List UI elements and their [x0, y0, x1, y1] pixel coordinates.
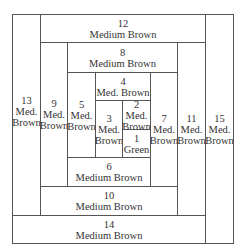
- block-number: 14: [104, 219, 115, 230]
- block-number: 13: [21, 95, 32, 106]
- block-1-center: 1 Green: [122, 129, 151, 158]
- block-number: 11: [186, 113, 196, 124]
- block-color-label: Med.: [181, 124, 203, 135]
- block-5: 5 Med. Brown: [67, 72, 96, 158]
- block-color-label: Med.: [209, 124, 231, 135]
- block-number: 15: [214, 113, 225, 124]
- block-11: 11 Med. Brown: [177, 42, 206, 216]
- block-15: 15 Med. Brown: [205, 14, 234, 244]
- block-number: 12: [118, 18, 129, 29]
- block-7: 7 Med. Brown: [150, 72, 178, 187]
- block-number: 10: [104, 190, 115, 201]
- block-2: 2 Med. Brown: [122, 100, 151, 130]
- block-14: 14 Medium Brown: [12, 215, 206, 244]
- block-color-label: Brown: [177, 135, 206, 146]
- block-8: 8 Medium Brown: [67, 42, 178, 73]
- block-color-label: Brown: [12, 117, 41, 128]
- block-color-label: Medium Brown: [76, 201, 143, 212]
- block-12: 12 Medium Brown: [40, 14, 206, 43]
- block-color-label: Med.: [71, 110, 93, 121]
- block-color-label: Med.: [16, 106, 38, 117]
- block-6: 6 Medium Brown: [67, 157, 151, 187]
- block-number: 8: [120, 47, 125, 58]
- block-9: 9 Med. Brown: [40, 42, 68, 187]
- block-3: 3 Med. Brown: [95, 100, 123, 158]
- block-color-label: Brown: [40, 120, 69, 131]
- block-number: 1: [134, 133, 139, 144]
- block-color-label: Brown: [95, 135, 124, 146]
- block-color-label: Med.: [43, 109, 65, 120]
- block-number: 7: [161, 113, 166, 124]
- block-color-label: Med. Brown: [96, 87, 149, 98]
- block-10: 10 Medium Brown: [40, 186, 178, 216]
- block-number: 2: [134, 99, 139, 110]
- block-color-label: Med.: [126, 110, 148, 121]
- block-number: 6: [106, 161, 111, 172]
- block-number: 4: [120, 76, 125, 87]
- block-color-label: Medium Brown: [89, 58, 156, 69]
- block-color-label: Medium Brown: [90, 29, 157, 40]
- block-4: 4 Med. Brown: [95, 72, 151, 101]
- block-color-label: Brown: [150, 135, 179, 146]
- block-color-label: Brown: [205, 135, 234, 146]
- block-color-label: Green: [124, 144, 150, 155]
- block-color-label: Brown: [67, 121, 96, 132]
- log-cabin-diagram: 15 Med. Brown 14 Medium Brown 13 Med. Br…: [0, 0, 244, 252]
- block-number: 3: [106, 113, 111, 124]
- block-color-label: Med.: [98, 124, 120, 135]
- block-number: 9: [51, 98, 56, 109]
- block-number: 5: [79, 99, 84, 110]
- block-color-label: Med.: [153, 124, 175, 135]
- block-13: 13 Med. Brown: [12, 14, 41, 216]
- block-color-label: Medium Brown: [76, 172, 143, 183]
- block-color-label: Medium Brown: [76, 230, 143, 241]
